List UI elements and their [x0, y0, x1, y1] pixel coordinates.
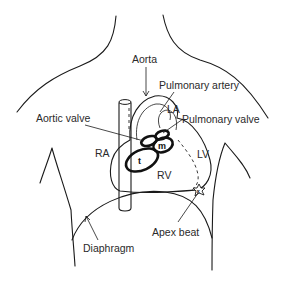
tricuspid-valve-ring: [122, 144, 161, 176]
label-ra: RA: [95, 147, 110, 159]
label-diaphragm: Diaphragm: [83, 242, 135, 254]
left-neck-shoulder-outline: [17, 16, 116, 112]
mitral-marker: m: [158, 141, 166, 151]
label-aortic-valve: Aortic valve: [36, 112, 90, 124]
diagram-canvas: t m x Aorta Pulmonary artery LA Aortic v…: [0, 0, 282, 283]
aortic-arch: [136, 104, 170, 140]
tricuspid-marker: t: [138, 156, 141, 166]
diaphragm-leader: [86, 216, 98, 240]
vena-cava-top: [119, 100, 131, 105]
label-pulmonary-artery: Pulmonary artery: [159, 79, 240, 91]
label-rv: RV: [157, 169, 171, 181]
left-armpit-outline: [40, 148, 75, 266]
label-lv: LV: [197, 148, 209, 160]
pulmonary-valve-ring: [154, 129, 170, 141]
right-armpit-outline: [212, 143, 250, 270]
aortic-valve-leader: [85, 125, 144, 141]
label-pulmonary-valve: Pulmonary valve: [182, 113, 260, 125]
label-apex-beat: Apex beat: [152, 226, 199, 238]
apex-beat-leader: [178, 193, 198, 222]
label-la: LA: [167, 103, 180, 115]
label-aorta: Aorta: [132, 53, 157, 65]
heart-surface-anatomy-diagram: t m x Aorta Pulmonary artery LA Aortic v…: [0, 0, 282, 283]
lv-rv-septum-dashed: [178, 140, 198, 191]
pulmonary-valve-leader: [163, 119, 183, 133]
